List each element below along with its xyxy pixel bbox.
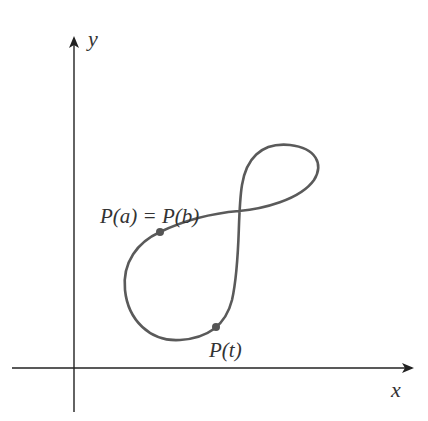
point-p-t-label: P(t) bbox=[209, 340, 242, 361]
point-p-a-label: P(a) = P(b) bbox=[100, 206, 199, 227]
point-p-t bbox=[212, 323, 220, 331]
parametric-curve bbox=[125, 145, 319, 340]
y-axis-label: y bbox=[88, 28, 98, 50]
point-p-a bbox=[156, 228, 164, 236]
x-axis-label: x bbox=[391, 379, 401, 401]
